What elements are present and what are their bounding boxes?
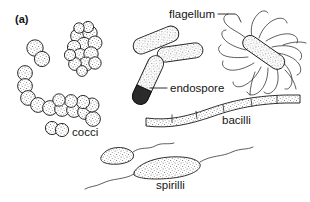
coccus-cell bbox=[86, 112, 101, 127]
coccus-cell bbox=[74, 23, 84, 33]
label-flagellum: flagellum bbox=[169, 8, 215, 20]
panel-label: (a) bbox=[15, 13, 29, 25]
coccus-cell bbox=[65, 95, 78, 108]
label-spirilli: spirilli bbox=[156, 179, 185, 191]
coccus-cell bbox=[76, 95, 89, 108]
coccus-cell bbox=[64, 49, 75, 60]
coccus-cell bbox=[34, 51, 49, 66]
coccus-cell bbox=[53, 94, 65, 106]
coccus-cell bbox=[89, 57, 101, 69]
label-bacilli: bacilli bbox=[222, 114, 251, 126]
label-endospore: endospore bbox=[170, 82, 224, 94]
bacteria-morphology-figure: (a) bbox=[0, 0, 310, 202]
cocci-pair bbox=[45, 121, 68, 136]
coccus-cell bbox=[77, 66, 88, 77]
coccus-cell bbox=[55, 123, 68, 136]
label-cocci: cocci bbox=[72, 126, 98, 138]
figure-canvas: (a) bbox=[0, 0, 310, 202]
